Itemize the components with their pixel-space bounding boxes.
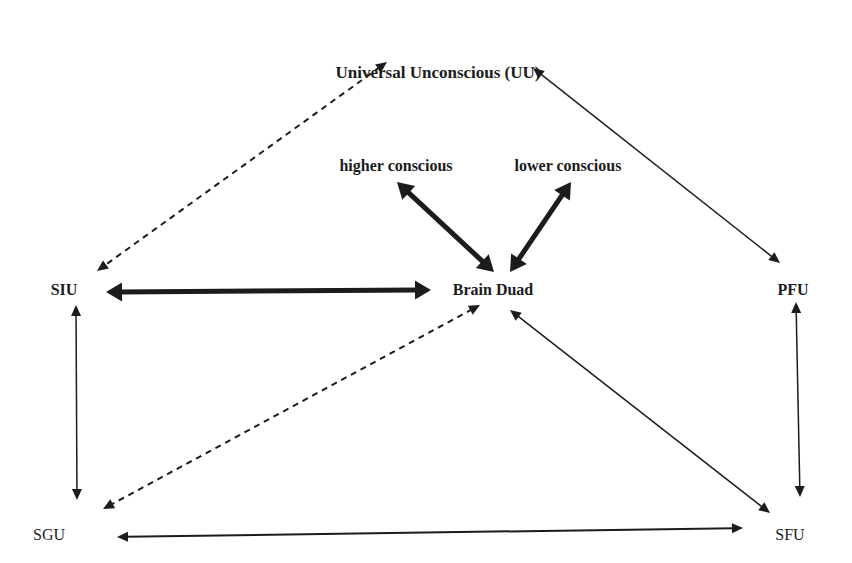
- arrow-higher-brain: [397, 182, 494, 272]
- arrow-lower-brain: [510, 182, 571, 272]
- node-brain-duad: Brain Duad: [453, 282, 533, 298]
- node-universal-unconscious: Universal Unconscious (UU): [336, 64, 541, 81]
- node-sfu: SFU: [775, 527, 804, 543]
- diagram-canvas: Universal Unconscious (UU) higher consci…: [0, 0, 852, 563]
- arrow-siu-brain: [106, 281, 431, 302]
- arrow-brain-sgu: [103, 305, 480, 509]
- arrow-brain-sfu: [510, 310, 770, 513]
- node-higher-conscious: higher conscious: [339, 158, 452, 174]
- arrow-siu-sgu: [71, 305, 82, 500]
- arrow-sgu-sfu: [117, 523, 743, 542]
- arrow-pfu-sfu: [791, 302, 805, 497]
- node-sgu: SGU: [33, 527, 65, 543]
- node-lower-conscious: lower conscious: [515, 158, 622, 174]
- arrows-layer: [0, 0, 852, 563]
- node-pfu: PFU: [777, 282, 808, 298]
- node-siu: SIU: [51, 282, 78, 298]
